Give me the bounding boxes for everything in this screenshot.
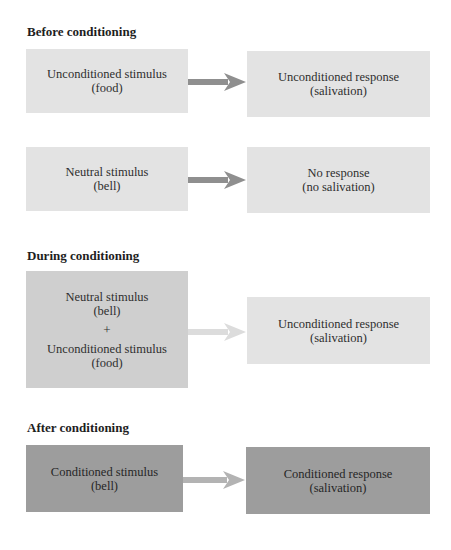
box-label: Unconditioned stimulus xyxy=(47,342,167,356)
box-sublabel: (salivation) xyxy=(310,84,367,98)
box-sublabel: (no salivation) xyxy=(302,180,375,194)
box-label: Unconditioned stimulus xyxy=(47,67,167,81)
box-sublabel: (food) xyxy=(91,81,122,95)
plus-sign: + xyxy=(103,323,110,337)
box-label: Neutral stimulus xyxy=(66,165,149,179)
box-sublabel: (salivation) xyxy=(310,331,367,345)
conditioned-response-box: Conditioned response (salivation) xyxy=(246,447,430,514)
box-label: Conditioned response xyxy=(284,467,393,481)
neutral-stimulus-box: Neutral stimulus (bell) xyxy=(26,147,188,211)
paired-stimulus-box: Neutral stimulus (bell) + Unconditioned … xyxy=(26,271,188,388)
box-label: Unconditioned response xyxy=(278,317,399,331)
unconditioned-response-box: Unconditioned response (salivation) xyxy=(247,51,430,117)
box-label: Neutral stimulus xyxy=(66,290,149,304)
box-label: No response xyxy=(307,166,369,180)
box-sublabel: (bell) xyxy=(93,179,120,193)
section-heading-before: Before conditioning xyxy=(27,24,136,40)
unconditioned-stimulus-box: Unconditioned stimulus (food) xyxy=(26,49,188,113)
conditioned-stimulus-box: Conditioned stimulus (bell) xyxy=(26,445,183,512)
right-arrow-icon xyxy=(188,73,246,91)
box-label: Unconditioned response xyxy=(278,70,399,84)
section-heading-during: During conditioning xyxy=(27,248,139,264)
box-sublabel: (food) xyxy=(91,356,122,370)
right-arrow-icon xyxy=(188,323,246,341)
right-arrow-icon xyxy=(188,171,246,189)
right-arrow-icon xyxy=(183,471,245,489)
box-label: Conditioned stimulus xyxy=(51,465,158,479)
section-heading-after: After conditioning xyxy=(27,420,129,436)
box-sublabel: (salivation) xyxy=(310,481,367,495)
no-response-box: No response (no salivation) xyxy=(247,147,430,213)
unconditioned-response-box: Unconditioned response (salivation) xyxy=(247,297,430,364)
box-sublabel: (bell) xyxy=(93,304,120,318)
box-sublabel: (bell) xyxy=(91,479,118,493)
